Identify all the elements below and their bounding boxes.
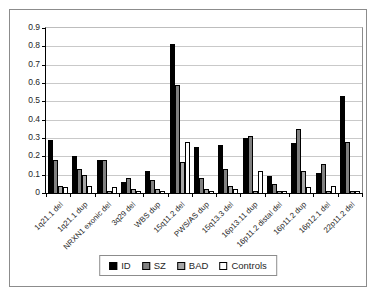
bar-controls-16p11-2-distal-del xyxy=(282,191,287,193)
bar-group xyxy=(119,28,143,193)
legend-label-controls: Controls xyxy=(231,260,266,271)
x-axis-category-label: WBS dup xyxy=(132,200,162,230)
bar-sz-nrxn1-exonic-del xyxy=(102,160,107,193)
y-axis-tick-label: 0.8 xyxy=(28,40,40,50)
bar-group xyxy=(192,28,216,193)
x-axis-labels: 1q21.1 del1q21.1 dupNRXN1 exonic del3q29… xyxy=(10,196,366,258)
x-axis-tick xyxy=(70,193,71,197)
bar-group xyxy=(338,28,362,193)
bar-controls-nrxn1-exonic-del xyxy=(112,187,117,193)
x-axis-tick xyxy=(362,193,363,197)
chart-figure: 0.90.80.70.60.50.40.30.20.10 1q21.1 del1… xyxy=(9,9,367,287)
x-axis-tick xyxy=(46,193,47,197)
x-axis-tick xyxy=(95,193,96,197)
legend-item-id: ID xyxy=(109,260,131,271)
bar-sz-22p11-2-del xyxy=(345,142,350,193)
x-axis-tick xyxy=(265,193,266,197)
bar-group xyxy=(265,28,289,193)
x-axis-category-label: 16p12.1 del xyxy=(297,200,332,235)
x-axis-category-label: 16p13.11 dup xyxy=(220,200,260,240)
bar-controls-1q21-1-del xyxy=(63,187,68,193)
bar-group xyxy=(168,28,192,193)
bar-controls-15q13-3-del xyxy=(233,189,238,193)
x-axis-category-label: 16p11.2 dup xyxy=(271,200,308,237)
bar-controls-16p12-1-del xyxy=(331,186,336,193)
bar-group xyxy=(46,28,70,193)
legend-label-bad: BAD xyxy=(189,260,209,271)
y-axis-tick-label: 0.3 xyxy=(28,132,40,142)
legend-item-bad: BAD xyxy=(177,260,209,271)
bar-controls-pws-as-dup xyxy=(209,191,214,193)
y-axis-tick-label: 0.4 xyxy=(28,114,40,124)
bar-controls-16p13-11-dup xyxy=(258,171,263,193)
x-axis-tick xyxy=(119,193,120,197)
plot-area xyxy=(45,27,363,194)
x-axis-category-label: 1q21.1 dup xyxy=(55,200,89,234)
x-axis-category-label: PWS/AS dup xyxy=(172,200,211,239)
legend-label-id: ID xyxy=(121,260,131,271)
y-axis-tick-label: 0.7 xyxy=(28,59,40,69)
x-axis-tick xyxy=(240,193,241,197)
legend-swatch-controls xyxy=(219,262,227,270)
x-axis-category-label: 1q21.1 del xyxy=(33,200,65,232)
x-axis-tick xyxy=(192,193,193,197)
x-axis-tick xyxy=(313,193,314,197)
legend-item-controls: Controls xyxy=(219,260,266,271)
legend-swatch-id xyxy=(109,262,117,270)
bar-controls-wbs-dup xyxy=(160,191,165,193)
y-axis-tick-label: 0.1 xyxy=(28,169,40,179)
x-axis-category-label: 15q11.2 del xyxy=(152,200,187,235)
x-axis-category-label: 16p11.2 distal del xyxy=(234,200,283,249)
bar-controls-16p11-2-dup xyxy=(306,187,311,193)
y-axis-labels: 0.90.80.70.60.50.40.30.20.10 xyxy=(10,27,43,192)
x-axis-tick xyxy=(168,193,169,197)
legend-item-sz: SZ xyxy=(142,260,166,271)
bar-controls-15q11-2-del xyxy=(185,142,190,193)
legend: ID SZ BAD Controls xyxy=(99,255,277,276)
x-axis-category-label: 3q29 del xyxy=(110,200,138,228)
x-axis-tick xyxy=(338,193,339,197)
legend-swatch-sz xyxy=(142,262,150,270)
bar-controls-3q29-del xyxy=(136,191,141,193)
y-axis-tick-label: 0.6 xyxy=(28,77,40,87)
x-axis-category-label: 22p11.2 del xyxy=(322,200,357,235)
y-axis-tick-label: 0.9 xyxy=(28,22,40,32)
y-axis-tick-label: 0.5 xyxy=(28,95,40,105)
x-axis-category-label: NRXN1 exonic del xyxy=(62,200,113,251)
bar-group xyxy=(95,28,119,193)
bar-group xyxy=(70,28,94,193)
x-axis-tick xyxy=(143,193,144,197)
bar-group xyxy=(240,28,264,193)
x-axis-category-label: 15q13.3 del xyxy=(200,200,235,235)
x-axis-tick xyxy=(289,193,290,197)
y-axis-tick-label: 0 xyxy=(35,187,40,197)
bar-group xyxy=(143,28,167,193)
bar-controls-22p11-2-del xyxy=(355,191,360,193)
bar-group xyxy=(216,28,240,193)
bar-group xyxy=(289,28,313,193)
x-axis-tick xyxy=(216,193,217,197)
legend-label-sz: SZ xyxy=(154,260,166,271)
bar-sz-16p13-11-dup xyxy=(248,136,253,193)
legend-swatch-bad xyxy=(177,262,185,270)
bar-group xyxy=(313,28,337,193)
bar-sz-16p12-1-del xyxy=(321,164,326,193)
y-axis-tick-label: 0.2 xyxy=(28,150,40,160)
bar-controls-1q21-1-dup xyxy=(87,186,92,193)
